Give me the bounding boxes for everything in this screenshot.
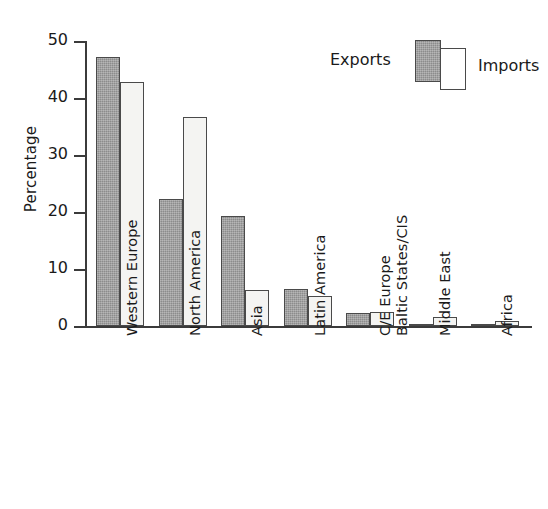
x-axis-label: Latin America: [313, 234, 328, 336]
x-axis-label: C/E EuropeBaltic States/CIS: [377, 215, 411, 336]
bar-exports: [221, 216, 245, 326]
x-axis-line: [85, 326, 532, 328]
x-axis-label-line: Middle East: [437, 251, 453, 336]
legend: Exports Imports: [330, 34, 540, 90]
bar-exports: [409, 324, 433, 326]
bar-exports: [284, 289, 308, 326]
x-axis-label-line: C/E Europe: [377, 255, 393, 336]
bar-exports: [159, 199, 183, 326]
legend-swatch-imports: [440, 48, 466, 90]
x-axis-label-line: North America: [187, 230, 203, 336]
y-tick-label: 30: [28, 146, 68, 162]
y-tick-label: 50: [28, 32, 68, 48]
x-axis-label: Asia: [250, 305, 265, 336]
bar-exports: [96, 57, 120, 326]
bar-exports: [471, 324, 495, 326]
x-axis-label-line: Baltic States/CIS: [394, 215, 411, 336]
x-axis-label: Western Europe: [125, 220, 140, 336]
x-axis-label-line: Asia: [249, 305, 265, 336]
y-tick-label: 0: [28, 317, 68, 333]
x-axis-label: Africa: [500, 294, 515, 336]
bar-exports: [346, 313, 370, 326]
bar-chart: Percentage 01020304050 Western EuropeNor…: [0, 0, 548, 509]
legend-label-exports: Exports: [330, 50, 391, 69]
x-axis-label-line: Africa: [499, 294, 515, 336]
x-axis-label-line: Latin America: [312, 234, 328, 336]
x-axis-label: North America: [188, 230, 203, 336]
x-axis-label-line: Western Europe: [124, 220, 140, 336]
x-axis-label: Middle East: [438, 251, 453, 336]
legend-swatch-exports: [415, 40, 441, 82]
y-tick-label: 10: [28, 260, 68, 276]
y-tick-label: 40: [28, 89, 68, 105]
y-tick-label: 20: [28, 203, 68, 219]
legend-label-imports: Imports: [478, 56, 539, 75]
